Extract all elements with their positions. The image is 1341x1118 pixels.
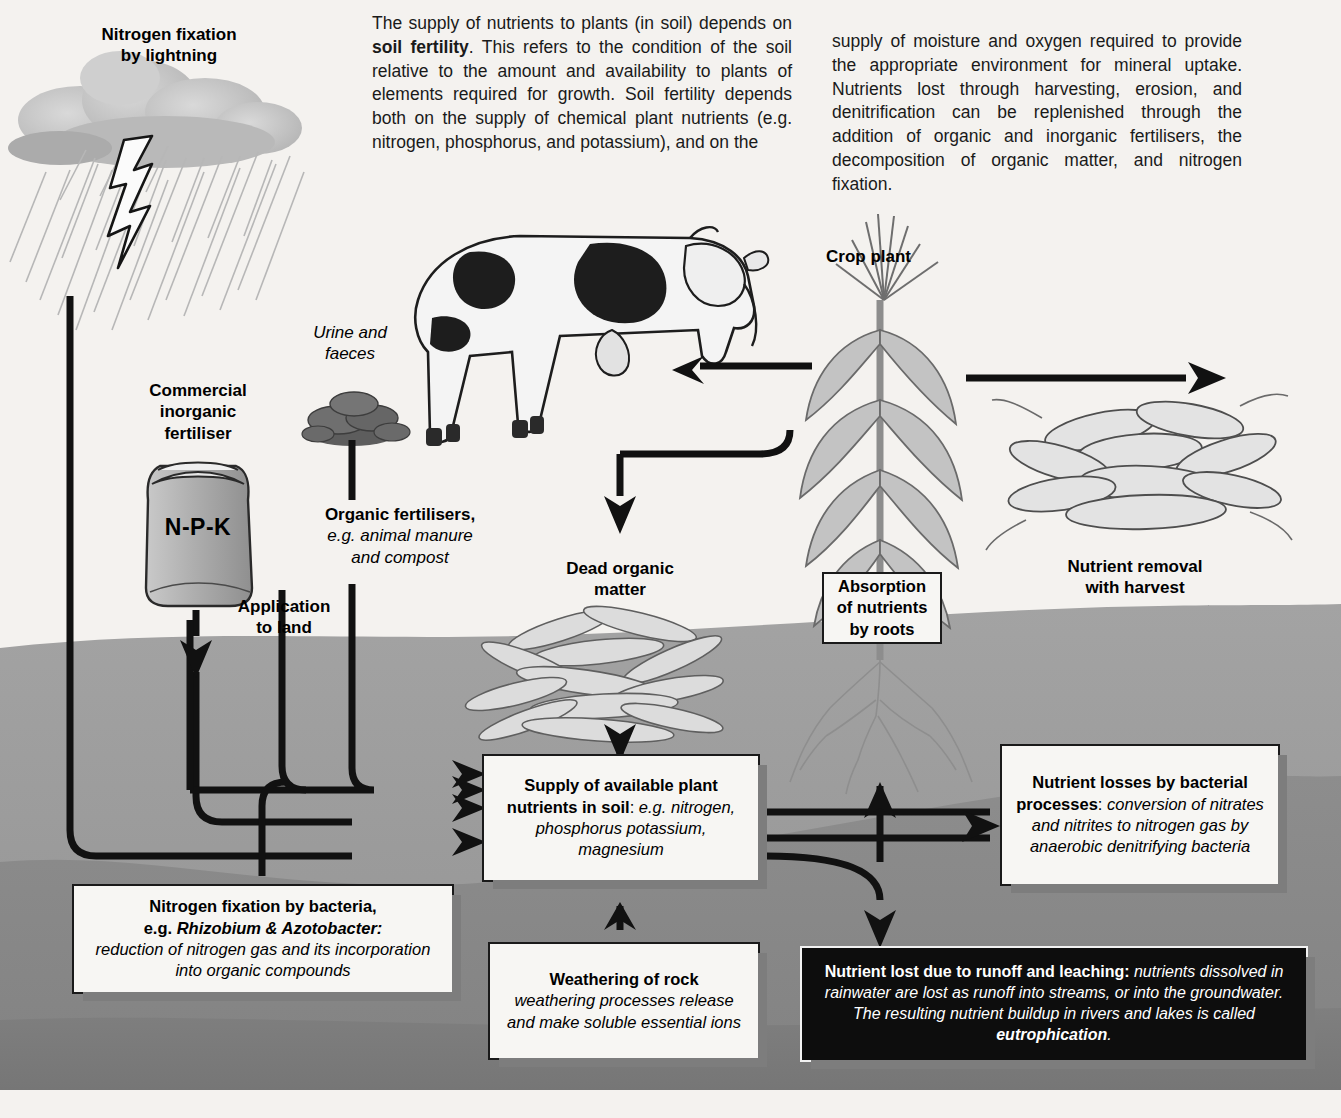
- box-supply-of-available-plant-nutrients[interactable]: Supply of available plant nutrients in s…: [482, 754, 760, 882]
- label-nutrient-removal-with-harvest: Nutrient removalwith harvest: [1000, 556, 1270, 599]
- nfix-species: Rhizobium & Azotobacter:: [177, 919, 383, 937]
- organic-fertilisers-bold: Organic fertilisers,: [325, 505, 475, 524]
- bacterial-box-separator: :: [1098, 795, 1107, 813]
- rain-streaks-icon: [10, 146, 304, 330]
- label-application-to-land: Applicationto land: [204, 596, 364, 639]
- label-dead-organic-matter: Dead organicmatter: [530, 558, 710, 601]
- intro-column-1: The supply of nutrients to plants (in so…: [372, 12, 792, 155]
- runoff-box-period: .: [1107, 1026, 1111, 1043]
- runoff-box-tail: eutrophication: [996, 1026, 1107, 1043]
- weathering-box-text: Weathering of rock weathering processes …: [500, 969, 748, 1033]
- box-nitrogen-fixation-by-bacteria[interactable]: Nitrogen fixation by bacteria, e.g. Rhiz…: [72, 884, 454, 994]
- box-weathering-of-rock[interactable]: Weathering of rock weathering processes …: [488, 942, 760, 1060]
- label-npk-bag: N-P-K: [150, 513, 246, 542]
- lightning-bolt-icon: [108, 136, 152, 268]
- diagram-page: The supply of nutrients to plants (in so…: [0, 0, 1341, 1118]
- weathering-box-bold: Weathering of rock: [549, 970, 698, 988]
- dead-leaf-litter-pile-illustration: [463, 599, 726, 747]
- intro-column-2: supply of moisture and oxygen required t…: [832, 30, 1242, 197]
- weathering-box-italic: weathering processes release and make so…: [507, 991, 741, 1030]
- label-urine-and-faeces: Urine andfaeces: [288, 322, 412, 365]
- nfix-box-italic: reduction of nitrogen gas and its incorp…: [96, 940, 431, 979]
- nfix-box-bold-line2: e.g. Rhizobium & Azotobacter:: [144, 919, 383, 937]
- absorption-box-text: Absorptionof nutrientsby roots: [834, 576, 930, 640]
- storm-cloud-icon: [8, 51, 302, 168]
- label-organic-fertilisers: Organic fertilisers, e.g. animal manurea…: [296, 504, 504, 568]
- organic-fertilisers-detail: e.g. animal manureand compost: [296, 525, 504, 568]
- label-crop-plant: Crop plant: [826, 246, 911, 267]
- harvested-maize-cobs-illustration: [986, 394, 1292, 550]
- box-nutrient-losses-by-bacterial-processes[interactable]: Nutrient losses by bacterial processes: …: [1000, 744, 1280, 886]
- box-nutrient-lost-due-to-runoff-and-leaching[interactable]: Nutrient lost due to runoff and leaching…: [800, 946, 1308, 1062]
- label-nitrogen-fixation-by-lightning: Nitrogen fixationby lightning: [44, 24, 294, 67]
- box-absorption-of-nutrients-by-roots[interactable]: Absorptionof nutrientsby roots: [822, 572, 942, 644]
- plant-roots: [790, 660, 972, 794]
- nfix-box-bold-line1: Nitrogen fixation by bacteria,: [149, 897, 376, 915]
- dung-pile-icon: [302, 392, 410, 446]
- supply-box-text: Supply of available plant nutrients in s…: [494, 775, 748, 861]
- supply-box-separator: :: [630, 798, 639, 816]
- nfix-eg: e.g.: [144, 919, 177, 937]
- bacterial-box-text: Nutrient losses by bacterial processes: …: [1012, 772, 1268, 858]
- dairy-cow-illustration: [415, 227, 768, 446]
- nfix-box-text: Nitrogen fixation by bacteria, e.g. Rhiz…: [84, 896, 442, 982]
- runoff-box-lead: Nutrient lost due to runoff and leaching…: [825, 963, 1130, 980]
- runoff-box-text: Nutrient lost due to runoff and leaching…: [812, 962, 1296, 1045]
- maize-crop-plant-illustration: [790, 214, 972, 794]
- label-commercial-inorganic-fertiliser: Commercialinorganicfertiliser: [108, 380, 288, 444]
